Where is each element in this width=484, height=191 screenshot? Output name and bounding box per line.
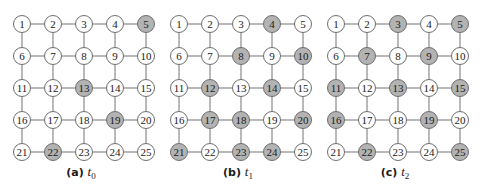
node-label: 20 bbox=[141, 114, 153, 126]
node-label: 19 bbox=[110, 114, 122, 126]
node-2: 2 bbox=[202, 16, 219, 33]
node-label: 11 bbox=[17, 82, 28, 94]
node-8: 8 bbox=[390, 48, 407, 65]
node-label: 12 bbox=[205, 82, 216, 94]
node-label: 10 bbox=[141, 50, 153, 62]
node-13: 13 bbox=[76, 80, 93, 97]
node-label: 5 bbox=[457, 18, 463, 30]
node-20: 20 bbox=[138, 112, 155, 129]
node-21: 21 bbox=[14, 144, 31, 161]
node-label: 4 bbox=[269, 18, 275, 30]
caption-label: (c) bbox=[381, 166, 398, 179]
node-label: 11 bbox=[331, 82, 342, 94]
node-18: 18 bbox=[233, 112, 250, 129]
node-1: 1 bbox=[328, 16, 345, 33]
node-label: 25 bbox=[298, 146, 310, 158]
node-label: 13 bbox=[79, 82, 91, 94]
node-label: 24 bbox=[110, 146, 122, 158]
node-23: 23 bbox=[76, 144, 93, 161]
node-label: 13 bbox=[393, 82, 405, 94]
node-24: 24 bbox=[421, 144, 438, 161]
node-23: 23 bbox=[233, 144, 250, 161]
node-15: 15 bbox=[452, 80, 469, 97]
node-label: 22 bbox=[362, 146, 373, 158]
node-label: 22 bbox=[48, 146, 59, 158]
caption-c: (c) t2 bbox=[314, 164, 476, 181]
node-14: 14 bbox=[107, 80, 124, 97]
node-label: 2 bbox=[207, 18, 213, 30]
node-3: 3 bbox=[390, 16, 407, 33]
node-8: 8 bbox=[76, 48, 93, 65]
node-label: 21 bbox=[174, 146, 185, 158]
node-label: 3 bbox=[238, 18, 244, 30]
node-label: 13 bbox=[236, 82, 248, 94]
node-label: 20 bbox=[455, 114, 467, 126]
node-15: 15 bbox=[295, 80, 312, 97]
node-10: 10 bbox=[452, 48, 469, 65]
node-3: 3 bbox=[233, 16, 250, 33]
node-1: 1 bbox=[14, 16, 31, 33]
node-12: 12 bbox=[45, 80, 62, 97]
node-17: 17 bbox=[45, 112, 62, 129]
node-label: 23 bbox=[236, 146, 248, 158]
node-label: 12 bbox=[48, 82, 59, 94]
node-label: 17 bbox=[48, 114, 60, 126]
node-14: 14 bbox=[264, 80, 281, 97]
panel-b: 1234567891011121314151617181920212223242… bbox=[157, 0, 319, 191]
node-24: 24 bbox=[264, 144, 281, 161]
node-2: 2 bbox=[45, 16, 62, 33]
node-3: 3 bbox=[76, 16, 93, 33]
node-label: 19 bbox=[267, 114, 279, 126]
node-label: 1 bbox=[19, 18, 25, 30]
caption-a: (a) t0 bbox=[0, 164, 162, 181]
node-label: 6 bbox=[19, 50, 25, 62]
node-label: 21 bbox=[331, 146, 342, 158]
node-label: 18 bbox=[393, 114, 405, 126]
node-7: 7 bbox=[359, 48, 376, 65]
node-5: 5 bbox=[452, 16, 469, 33]
node-22: 22 bbox=[202, 144, 219, 161]
node-label: 18 bbox=[236, 114, 248, 126]
node-17: 17 bbox=[359, 112, 376, 129]
node-label: 6 bbox=[176, 50, 182, 62]
node-label: 2 bbox=[364, 18, 370, 30]
node-25: 25 bbox=[452, 144, 469, 161]
node-23: 23 bbox=[390, 144, 407, 161]
node-19: 19 bbox=[107, 112, 124, 129]
node-label: 24 bbox=[424, 146, 436, 158]
caption-b: (b) t1 bbox=[157, 164, 319, 181]
node-13: 13 bbox=[233, 80, 250, 97]
node-label: 8 bbox=[238, 50, 244, 62]
node-9: 9 bbox=[421, 48, 438, 65]
node-9: 9 bbox=[264, 48, 281, 65]
node-18: 18 bbox=[76, 112, 93, 129]
node-label: 14 bbox=[267, 82, 279, 94]
node-12: 12 bbox=[202, 80, 219, 97]
grid-graph-c: 1234567891011121314151617181920212223242… bbox=[314, 0, 476, 165]
node-17: 17 bbox=[202, 112, 219, 129]
node-label: 5 bbox=[300, 18, 306, 30]
node-9: 9 bbox=[107, 48, 124, 65]
node-label: 4 bbox=[112, 18, 118, 30]
node-11: 11 bbox=[171, 80, 188, 97]
node-label: 14 bbox=[110, 82, 122, 94]
node-label: 24 bbox=[267, 146, 279, 158]
node-24: 24 bbox=[107, 144, 124, 161]
node-21: 21 bbox=[328, 144, 345, 161]
panel-a: 1234567891011121314151617181920212223242… bbox=[0, 0, 162, 191]
node-20: 20 bbox=[295, 112, 312, 129]
node-label: 2 bbox=[50, 18, 56, 30]
node-5: 5 bbox=[295, 16, 312, 33]
node-label: 15 bbox=[298, 82, 310, 94]
node-label: 21 bbox=[17, 146, 28, 158]
node-label: 16 bbox=[17, 114, 29, 126]
node-label: 17 bbox=[205, 114, 217, 126]
node-label: 23 bbox=[393, 146, 405, 158]
node-18: 18 bbox=[390, 112, 407, 129]
node-label: 8 bbox=[81, 50, 87, 62]
node-20: 20 bbox=[452, 112, 469, 129]
node-19: 19 bbox=[264, 112, 281, 129]
node-4: 4 bbox=[107, 16, 124, 33]
node-label: 3 bbox=[81, 18, 87, 30]
node-label: 17 bbox=[362, 114, 374, 126]
